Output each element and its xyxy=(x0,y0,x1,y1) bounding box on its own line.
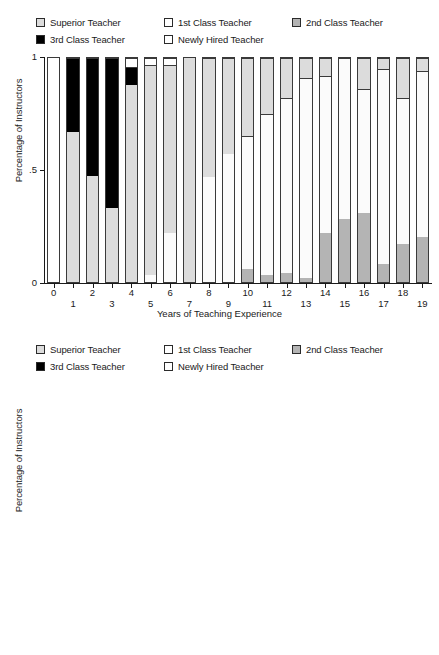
x-tick-label: 14 xyxy=(314,288,336,298)
plot-area-top: Percentage of Instructors Years of Teach… xyxy=(0,0,439,327)
bar-segment-second xyxy=(378,264,390,282)
bar-segment-second xyxy=(417,237,429,282)
bar-segment-superior xyxy=(397,58,409,98)
plot-area-bottom: Percentage of Instructors Years of Teach… xyxy=(0,327,439,655)
stacked-bar[interactable] xyxy=(105,57,119,283)
bar-segment-superior xyxy=(242,58,254,136)
chart-panel-bottom: Superior Teacher1st Class Teacher2nd Cla… xyxy=(0,327,439,655)
bar-segment-newly xyxy=(48,58,60,282)
stacked-bar[interactable] xyxy=(222,57,236,283)
stacked-bar[interactable] xyxy=(260,57,274,283)
bar-segment-second xyxy=(300,278,312,282)
bar-segment-first xyxy=(300,78,312,277)
bar-segment-superior xyxy=(320,58,332,76)
x-tick-label: 3 xyxy=(101,299,123,309)
bar-segment-second xyxy=(261,275,273,282)
x-tick-label: 0 xyxy=(43,288,65,298)
bar-segment-first xyxy=(242,136,254,268)
bar-segment-newly xyxy=(164,58,176,65)
stacked-bar[interactable] xyxy=(299,57,313,283)
stacked-bar[interactable] xyxy=(163,57,177,283)
stacked-bar[interactable] xyxy=(183,57,197,283)
stacked-bar[interactable] xyxy=(396,57,410,283)
x-axis-label-top: Years of Teaching Experience xyxy=(0,308,439,319)
x-tick-mark xyxy=(267,284,268,288)
bar-segment-superior xyxy=(184,58,196,282)
stacked-bar[interactable] xyxy=(66,57,80,283)
bar-segment-first xyxy=(145,275,157,282)
bar-segment-second xyxy=(397,244,409,282)
bar-segment-third xyxy=(87,58,99,176)
bar-segment-superior xyxy=(261,58,273,114)
x-tick-label: 9 xyxy=(217,299,239,309)
x-tick-mark xyxy=(228,284,229,288)
bar-segment-superior xyxy=(203,58,215,177)
x-tick-label: 10 xyxy=(237,288,259,298)
bar-segment-superior xyxy=(106,208,118,282)
x-tick-mark xyxy=(422,284,423,288)
bar-segment-superior xyxy=(67,132,79,282)
x-tick-label: 13 xyxy=(295,299,317,309)
bar-segment-first xyxy=(397,98,409,244)
bar-segment-second xyxy=(320,233,332,282)
bar-segment-first xyxy=(203,177,215,282)
bar-segment-superior xyxy=(223,58,235,154)
bar-segment-first xyxy=(339,58,351,219)
x-tick-label: 11 xyxy=(256,299,278,309)
bar-segment-second xyxy=(339,219,351,282)
x-tick-label: 2 xyxy=(82,288,104,298)
stacked-bar[interactable] xyxy=(280,57,294,283)
stacked-bar[interactable] xyxy=(377,57,391,283)
bar-segment-superior xyxy=(358,58,370,89)
bar-segment-superior xyxy=(417,58,429,71)
x-tick-label: 6 xyxy=(159,288,181,298)
stacked-bar[interactable] xyxy=(47,57,61,283)
x-axis-line-top xyxy=(44,283,432,284)
stacked-bar[interactable] xyxy=(319,57,333,283)
x-tick-label: 17 xyxy=(373,299,395,309)
y-tick-label: 0 xyxy=(15,278,42,287)
x-tick-mark xyxy=(384,284,385,288)
x-tick-label: 4 xyxy=(120,288,142,298)
stacked-bar[interactable] xyxy=(357,57,371,283)
bar-segment-second xyxy=(242,269,254,282)
y-tick-label: 1 xyxy=(15,52,42,61)
y-axis-label-bottom: Percentage of Instructors xyxy=(13,381,24,541)
x-tick-mark xyxy=(306,284,307,288)
bar-segment-newly xyxy=(126,58,138,67)
y-axis-line-top xyxy=(44,57,45,283)
stacked-bar[interactable] xyxy=(202,57,216,283)
x-tick-label: 5 xyxy=(140,299,162,309)
stacked-bar[interactable] xyxy=(338,57,352,283)
x-tick-label: 1 xyxy=(62,299,84,309)
bar-segment-first xyxy=(358,89,370,212)
bar-segment-superior xyxy=(164,65,176,233)
x-tick-mark xyxy=(112,284,113,288)
bar-segment-superior xyxy=(281,58,293,98)
bar-segment-first xyxy=(261,114,273,275)
stacked-bar[interactable] xyxy=(125,57,139,283)
x-tick-label: 12 xyxy=(276,288,298,298)
bar-segment-first xyxy=(378,69,390,264)
bar-segment-superior xyxy=(87,176,99,282)
bar-segment-first xyxy=(223,154,235,282)
bar-segment-superior xyxy=(300,58,312,78)
stacked-bar[interactable] xyxy=(144,57,158,283)
bar-segment-first xyxy=(320,76,332,233)
bar-segment-third xyxy=(126,67,138,85)
stacked-bar[interactable] xyxy=(416,57,430,283)
bar-segment-third xyxy=(106,58,118,208)
stacked-bar[interactable] xyxy=(86,57,100,283)
y-axis-label-top: Percentage of Instructors xyxy=(13,51,24,211)
stacked-bar[interactable] xyxy=(241,57,255,283)
bar-segment-third xyxy=(67,58,79,132)
x-tick-label: 15 xyxy=(334,299,356,309)
bar-segment-first xyxy=(281,98,293,273)
bar-segment-superior xyxy=(145,65,157,276)
chart-panel-top: Superior Teacher1st Class Teacher2nd Cla… xyxy=(0,0,439,327)
x-tick-mark xyxy=(73,284,74,288)
x-tick-label: 7 xyxy=(179,299,201,309)
x-tick-mark xyxy=(151,284,152,288)
x-tick-label: 8 xyxy=(198,288,220,298)
x-tick-mark xyxy=(190,284,191,288)
